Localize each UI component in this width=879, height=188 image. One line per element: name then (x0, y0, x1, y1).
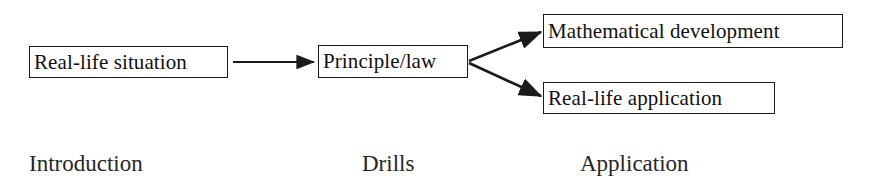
node-label-real-life-application: Real-life application (544, 88, 726, 109)
edge-principle-to-math (469, 32, 541, 61)
stage-caption-drills: Drills (362, 152, 414, 175)
node-real-life-situation: Real-life situation (29, 46, 228, 78)
node-label-principle-law: Principle/law (319, 51, 440, 72)
edge-principle-to-application (469, 63, 541, 96)
node-label-mathematical-development: Mathematical development (544, 21, 784, 42)
stage-caption-application: Application (580, 152, 689, 175)
flowchart-diagram: Real-life situation Principle/law Mathem… (0, 0, 879, 188)
node-real-life-application: Real-life application (543, 82, 775, 114)
node-label-real-life-situation: Real-life situation (30, 52, 191, 73)
node-mathematical-development: Mathematical development (543, 14, 843, 48)
stage-caption-introduction: Introduction (29, 152, 143, 175)
node-principle-law: Principle/law (318, 45, 468, 78)
